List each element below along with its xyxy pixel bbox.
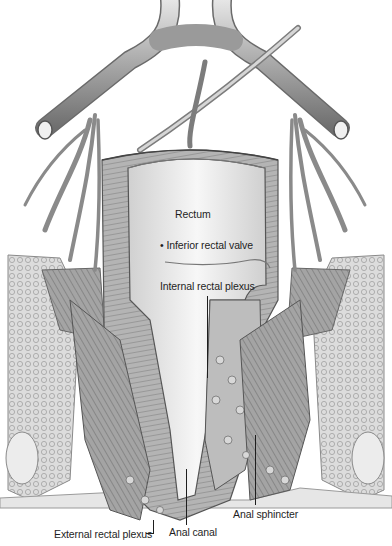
rectum-wall [70, 150, 310, 520]
vessel-opening-right [334, 121, 348, 139]
label-anal-canal: Anal canal [169, 526, 217, 538]
rectum-anatomy-drawing [0, 0, 392, 546]
leader-external-rectal-plexus-v [153, 520, 154, 534]
vessel-opening-left [38, 121, 52, 139]
leader-internal-rectal-plexus [207, 296, 208, 378]
leader-anal-canal [186, 469, 187, 525]
label-anal-sphincter: Anal sphincter [233, 508, 298, 520]
label-rectum: Rectum [175, 208, 211, 220]
label-inferior-rectal-valve: • Inferior rectal valve [160, 239, 253, 251]
anatomy-illustration: Rectum • Inferior rectal valve Internal … [0, 0, 392, 546]
label-internal-rectal-plexus: Internal rectal plexus [160, 280, 255, 292]
label-external-rectal-plexus: External rectal plexus [54, 528, 152, 540]
leader-anal-sphincter [255, 435, 256, 505]
